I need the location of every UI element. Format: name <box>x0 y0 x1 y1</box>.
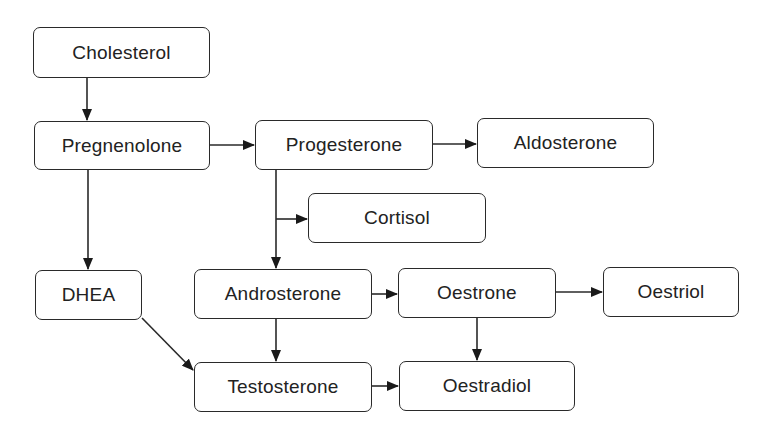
node-label: Testosterone <box>227 376 338 398</box>
node-pregnenolone: Pregnenolone <box>34 121 210 170</box>
node-testosterone: Testosterone <box>194 362 372 412</box>
node-label: Oestradiol <box>443 375 532 397</box>
node-cortisol: Cortisol <box>308 193 486 243</box>
node-label: DHEA <box>62 284 116 306</box>
node-label: Pregnenolone <box>62 135 183 157</box>
node-cholesterol: Cholesterol <box>33 27 210 78</box>
node-label: Cholesterol <box>72 42 170 64</box>
node-oestriol: Oestriol <box>603 267 739 317</box>
node-label: Oestriol <box>637 281 704 303</box>
node-androsterone: Androsterone <box>194 269 372 319</box>
node-label: Progesterone <box>286 134 402 156</box>
edge-dhea-testosterone <box>142 318 193 370</box>
node-oestrone: Oestrone <box>398 268 556 318</box>
node-label: Cortisol <box>364 207 430 229</box>
node-label: Aldosterone <box>514 132 618 154</box>
node-oestradiol: Oestradiol <box>399 361 575 411</box>
node-label: Androsterone <box>225 283 341 305</box>
node-progesterone: Progesterone <box>255 120 433 170</box>
node-label: Oestrone <box>437 282 517 304</box>
node-dhea: DHEA <box>35 270 142 320</box>
node-aldosterone: Aldosterone <box>477 118 654 168</box>
